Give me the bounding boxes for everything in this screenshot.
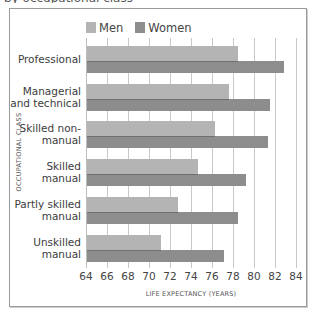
legend-item-women: Women — [135, 21, 191, 35]
legend-label-men: Men — [99, 21, 123, 35]
x-tick-label: 66 — [97, 270, 117, 282]
gridline — [296, 38, 297, 268]
bar-men — [86, 46, 238, 62]
bar-men — [86, 121, 215, 137]
x-tick-label: 70 — [139, 270, 159, 282]
category-label: Skilledmanual — [0, 160, 81, 184]
y-axis-line — [86, 38, 87, 268]
legend-item-men: Men — [86, 21, 123, 35]
category-label: Unskilledmanual — [0, 236, 81, 260]
x-tick-label: 72 — [160, 270, 180, 282]
y-axis-title: OCCUPATIONAL CLASS — [15, 113, 23, 192]
bar-women — [86, 99, 270, 111]
bar-women — [86, 136, 268, 148]
bar-women — [86, 250, 224, 262]
legend-swatch-women — [135, 22, 145, 33]
x-tick-label: 84 — [286, 270, 306, 282]
bar-men — [86, 197, 178, 213]
legend: Men Women — [86, 21, 204, 34]
bar-men — [86, 235, 161, 251]
x-tick-label: 82 — [265, 270, 285, 282]
x-tick-label: 80 — [244, 270, 264, 282]
x-tick-label: 78 — [223, 270, 243, 282]
legend-swatch-men — [86, 22, 96, 33]
plot-area — [86, 38, 296, 268]
bar-men — [86, 84, 229, 100]
category-label: Partly skilledmanual — [0, 198, 81, 222]
bar-women — [86, 212, 238, 224]
category-label: Skilled non-manual — [0, 122, 81, 146]
category-label: Managerialand technical — [0, 85, 81, 109]
bar-men — [86, 159, 198, 175]
legend-label-women: Women — [148, 21, 191, 35]
category-label: Professional — [0, 53, 81, 65]
x-tick-label: 68 — [118, 270, 138, 282]
x-tick-label: 76 — [202, 270, 222, 282]
x-axis-title: LIFE EXPECTANCY (YEARS) — [86, 290, 296, 298]
x-tick-label: 74 — [181, 270, 201, 282]
bar-women — [86, 174, 246, 186]
x-tick-label: 64 — [76, 270, 96, 282]
bar-women — [86, 61, 284, 73]
cropped-title: by occupational class — [4, 0, 144, 3]
